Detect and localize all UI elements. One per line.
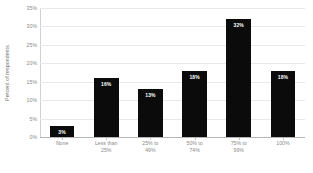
x-axis-tick-label: None (40, 140, 84, 147)
y-axis-tick-label: 10% (27, 97, 37, 103)
bar-value-label: 18% (182, 74, 207, 80)
bar-group: 18% (271, 8, 296, 137)
x-axis-tick-labels: NoneLess than25%25% to49%50% to74%75% to… (40, 140, 305, 170)
x-axis-tick-label-line: Less than (84, 140, 128, 147)
bar-group: 18% (182, 8, 207, 137)
x-axis-tick-label-line: None (40, 140, 84, 147)
x-axis-tick-label-line: 25% to (128, 140, 172, 147)
bar-value-label: 16% (94, 81, 119, 87)
bar[interactable]: 32% (226, 19, 251, 137)
x-axis-tick-label: 75% to99% (217, 140, 261, 154)
x-axis-tick-label: 50% to74% (173, 140, 217, 154)
y-axis-title: Percent of respondents (0, 0, 14, 145)
x-axis-tick-label: 25% to49% (128, 140, 172, 154)
bar[interactable]: 13% (138, 89, 163, 137)
x-axis-tick-label: 100% (261, 140, 305, 147)
bar-value-label: 3% (50, 129, 75, 135)
y-axis-tick-label: 30% (27, 23, 37, 29)
bar-group: 3% (50, 8, 75, 137)
bar-group: 13% (138, 8, 163, 137)
y-axis-tick-labels: 35%30%25%20%15%10%5%0% (14, 0, 40, 145)
x-axis-tick-label-line: 50% to (173, 140, 217, 147)
bar[interactable]: 16% (94, 78, 119, 137)
x-axis-line (40, 137, 305, 138)
bar-group: 16% (94, 8, 119, 137)
bar-value-label: 18% (271, 74, 296, 80)
bar-group: 32% (226, 8, 251, 137)
bars-layer: 3%16%13%18%32%18% (40, 8, 305, 137)
y-axis-tick-label: 15% (27, 79, 37, 85)
bar[interactable]: 3% (50, 126, 75, 137)
x-axis-tick-label-line: 75% to (217, 140, 261, 147)
x-axis-tick-label-line: 100% (261, 140, 305, 147)
y-axis-tick-label: 0% (30, 134, 38, 140)
x-axis-tick-label-line: 49% (128, 147, 172, 154)
bar[interactable]: 18% (182, 71, 207, 137)
x-axis-tick-label-line: 99% (217, 147, 261, 154)
y-axis-tick-label: 25% (27, 42, 37, 48)
plot-area: 3%16%13%18%32%18% (40, 8, 305, 137)
x-axis-tick-label-line: 74% (173, 147, 217, 154)
bar-value-label: 13% (138, 92, 163, 98)
bar-value-label: 32% (226, 22, 251, 28)
x-axis-tick-label-line: 25% (84, 147, 128, 154)
y-axis-tick-label: 5% (30, 116, 38, 122)
x-axis-tick-label: Less than25% (84, 140, 128, 154)
y-axis-tick-label: 35% (27, 5, 37, 11)
y-axis-tick-label: 20% (27, 60, 37, 66)
bar[interactable]: 18% (271, 71, 296, 137)
bar-chart: Percent of respondents 35%30%25%20%15%10… (0, 0, 313, 173)
y-axis-title-label: Percent of respondents (4, 45, 10, 101)
